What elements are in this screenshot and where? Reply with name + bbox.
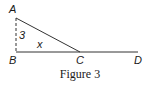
triangle-figure: A B C D 3 x Figure 3 (0, 0, 158, 85)
side-label-ab: 3 (19, 29, 26, 41)
point-label-b: B (9, 54, 16, 66)
angle-label-x: x (36, 38, 43, 50)
point-label-a: A (8, 3, 16, 15)
segment-ac (16, 18, 80, 52)
figure-caption: Figure 3 (60, 67, 100, 81)
point-label-d: D (134, 54, 142, 66)
point-label-c: C (76, 54, 84, 66)
